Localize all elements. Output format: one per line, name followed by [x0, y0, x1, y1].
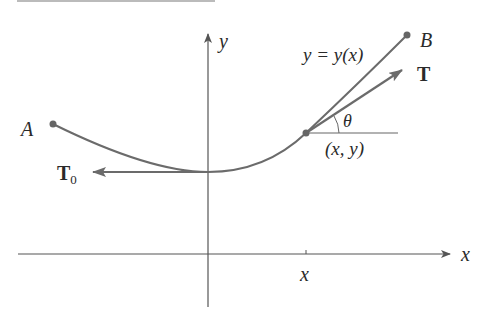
label-tension: T — [417, 64, 430, 84]
label-x-axis: x — [461, 244, 470, 264]
diagram-svg — [0, 0, 487, 319]
point-b-dot — [404, 32, 411, 39]
label-tension-zero-main: T — [57, 162, 70, 184]
label-x-tick: x — [300, 264, 309, 284]
diagram-canvas: A B y = y(x) T T0 θ (x, y) x y x — [0, 0, 487, 319]
label-y-axis: y — [219, 31, 228, 51]
label-point-xy: (x, y) — [325, 139, 364, 158]
point-xy-dot — [303, 130, 310, 137]
theta-arc — [334, 116, 339, 133]
label-tension-zero: T0 — [57, 163, 77, 186]
point-a-dot — [50, 121, 57, 128]
label-b: B — [420, 30, 432, 50]
tension-arrow — [306, 70, 402, 133]
label-tension-zero-sub: 0 — [70, 172, 77, 187]
label-a: A — [21, 119, 33, 139]
label-theta: θ — [343, 112, 352, 130]
label-curve-equation: y = y(x) — [303, 45, 363, 64]
